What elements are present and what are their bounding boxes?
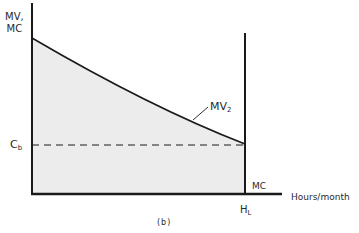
x-axis-label: Hours/month [291,193,350,202]
y-axis-label-line1: MV, [5,11,24,23]
y-axis-label: MV, MC [5,11,24,35]
shaded-area [32,38,245,194]
figure-caption: (b) [157,219,171,227]
mv2-leader-line [193,107,208,120]
mv2-label: MV2 [210,101,231,114]
mc-label: MC [252,182,266,191]
hl-label: HL [240,205,251,217]
cb-label: Cb [10,139,22,152]
y-axis-label-line2: MC [5,23,24,35]
